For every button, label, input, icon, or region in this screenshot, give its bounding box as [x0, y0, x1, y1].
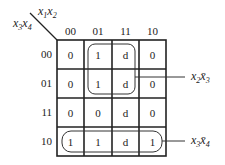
row-header: 10	[41, 135, 53, 147]
cell: 1	[95, 78, 101, 90]
cell: 0	[68, 49, 74, 61]
cell: d	[123, 136, 129, 148]
cell: 0	[95, 107, 101, 119]
group-label-x3-notx4: x3x̄4	[190, 133, 210, 149]
cell: 1	[95, 49, 101, 61]
cell: 0	[150, 78, 156, 90]
row-header: 00	[41, 48, 53, 60]
cell: 0	[150, 107, 156, 119]
col-header: 10	[147, 25, 159, 37]
group-label-x2-notx3: x2x̄3	[190, 69, 210, 85]
col-header: 01	[93, 25, 104, 37]
cell: 1	[95, 136, 101, 148]
cell: 1	[68, 136, 74, 148]
karnaugh-map: x1x2 x3x4 00 01 11 10 00 01 11 10 0 1 d …	[0, 0, 225, 165]
cell: 0	[68, 107, 74, 119]
row-headers: 00 01 11 10	[41, 48, 53, 147]
cell: 1	[150, 136, 156, 148]
cell: d	[123, 49, 129, 61]
left-variable-label: x3x4	[12, 16, 32, 32]
row-header: 01	[41, 77, 52, 89]
cell: d	[123, 78, 129, 90]
row-header: 11	[41, 106, 52, 118]
cell: 0	[68, 78, 74, 90]
top-variable-label: x1x2	[37, 4, 57, 20]
column-headers: 00 01 11 10	[65, 25, 159, 37]
col-header: 00	[65, 25, 77, 37]
cell: 0	[150, 49, 156, 61]
col-header: 11	[120, 25, 131, 37]
cell: d	[123, 107, 129, 119]
